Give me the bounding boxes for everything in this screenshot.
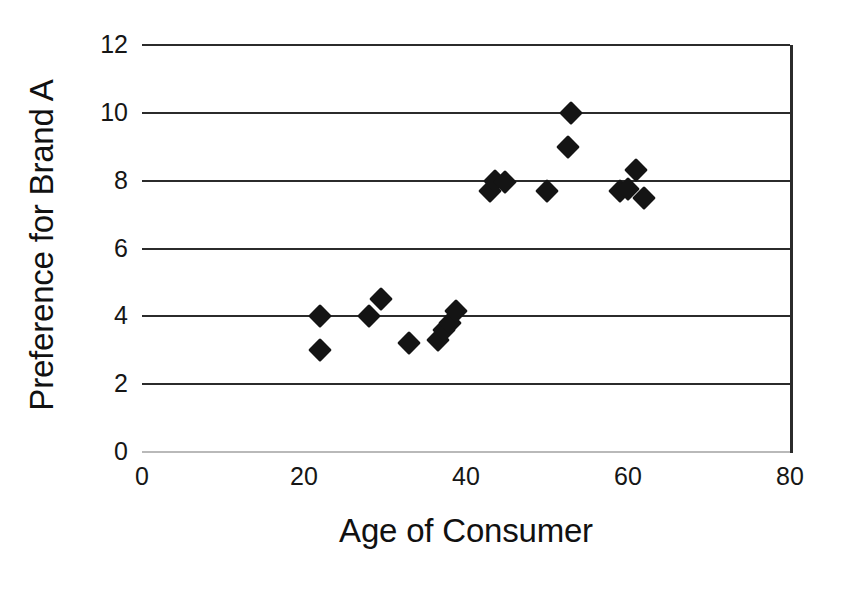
x-axis-title: Age of Consumer <box>142 512 790 550</box>
data-point <box>535 179 559 203</box>
x-tick-label-60: 60 <box>598 464 658 489</box>
plot-area <box>0 0 845 592</box>
gridline-y-4 <box>142 315 790 317</box>
data-point <box>308 304 332 328</box>
y-tick-label-4: 4 <box>82 303 128 328</box>
data-point <box>556 135 580 159</box>
data-point <box>559 101 583 125</box>
x-tick-label-20: 20 <box>274 464 334 489</box>
y-tick-label-0: 0 <box>82 439 128 464</box>
gridline-y-0 <box>142 451 790 453</box>
scatter-chart: Preference for Brand A Age of Consumer 0… <box>0 0 845 592</box>
data-point <box>397 331 421 355</box>
x-tick-label-80: 80 <box>760 464 820 489</box>
data-point <box>308 338 332 362</box>
x-tick-label-40: 40 <box>436 464 496 489</box>
gridline-y-2 <box>142 383 790 385</box>
gridline-y-6 <box>142 248 790 250</box>
y-tick-label-12: 12 <box>82 32 128 57</box>
gridline-y-12 <box>142 44 790 46</box>
y-tick-label-6: 6 <box>82 236 128 261</box>
gridline-y-8 <box>142 180 790 182</box>
y-tick-label-2: 2 <box>82 371 128 396</box>
y-tick-label-8: 8 <box>82 168 128 193</box>
gridline-y-10 <box>142 112 790 114</box>
y-tick-label-10: 10 <box>82 100 128 125</box>
x-tick-label-0: 0 <box>112 464 172 489</box>
y-axis-line <box>790 45 793 453</box>
